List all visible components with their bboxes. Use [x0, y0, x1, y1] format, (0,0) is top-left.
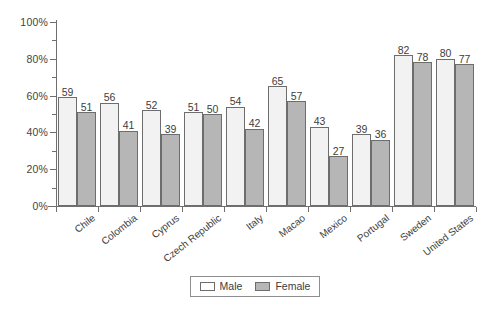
bar-male: 43 [310, 127, 329, 206]
bar-chart: 0%20%40%60%80%100% 595156415239515054426… [0, 0, 499, 309]
bar-value-label: 52 [146, 100, 158, 111]
bar-male: 59 [58, 97, 77, 206]
bar-group: 5150 [184, 22, 222, 206]
bar-value-label: 80 [440, 48, 452, 59]
y-axis-label: 40% [26, 127, 48, 138]
bar-group: 4327 [310, 22, 348, 206]
bar-value-label: 65 [272, 76, 284, 87]
y-axis-label: 100% [20, 17, 48, 28]
bar-value-label: 56 [104, 92, 116, 103]
bar-male: 39 [352, 134, 371, 206]
bar-value-label: 77 [459, 54, 471, 65]
legend-label-male: Male [220, 281, 243, 292]
bar-value-label: 39 [165, 124, 177, 135]
bar-female: 42 [245, 129, 264, 206]
bar-female: 50 [203, 114, 222, 206]
bar-male: 52 [142, 110, 161, 206]
x-axis-line [48, 206, 476, 207]
bar-group: 5442 [226, 22, 264, 206]
x-axis-tick [224, 207, 225, 212]
bar-female: 78 [413, 62, 432, 206]
bar-female: 41 [119, 131, 138, 206]
bar-group: 5951 [58, 22, 96, 206]
bar-female: 39 [161, 134, 180, 206]
bar-value-label: 51 [81, 102, 93, 113]
bar-male: 65 [268, 86, 287, 206]
legend-entry-female: Female [255, 281, 310, 292]
bar-female: 57 [287, 101, 306, 206]
legend-entry-male: Male [200, 281, 243, 292]
bar-female: 27 [329, 156, 348, 206]
x-axis-tick [182, 207, 183, 212]
x-axis-tick [56, 207, 57, 212]
x-axis-tick [434, 207, 435, 212]
bar-male: 82 [394, 55, 413, 206]
x-axis-category-label: Colombia [100, 213, 139, 247]
bar-group: 3936 [352, 22, 390, 206]
y-axis-label: 20% [26, 164, 48, 175]
x-axis-category-label: Chile [73, 213, 97, 235]
bar-value-label: 78 [417, 52, 429, 63]
bar-female: 36 [371, 140, 390, 206]
legend-label-female: Female [275, 281, 310, 292]
bar-value-label: 82 [398, 45, 410, 56]
bar-value-label: 51 [188, 102, 200, 113]
bar-male: 56 [100, 103, 119, 206]
y-axis-label: 80% [26, 54, 48, 65]
bar-group: 5641 [100, 22, 138, 206]
x-axis-tick [308, 207, 309, 212]
x-axis-category-label: Cyprus [150, 213, 181, 240]
bar-value-label: 57 [291, 91, 303, 102]
x-axis-tick [476, 207, 477, 212]
x-axis-category-label: Portugal [356, 213, 392, 244]
bar-value-label: 43 [314, 116, 326, 127]
bar-female: 77 [455, 64, 474, 206]
bar-male: 80 [436, 59, 455, 206]
bar-group: 8278 [394, 22, 432, 206]
bar-male: 54 [226, 107, 245, 206]
x-axis-tick [266, 207, 267, 212]
y-axis-label: 60% [26, 91, 48, 102]
bar-value-label: 27 [333, 146, 345, 157]
chart-legend: Male Female [190, 276, 320, 297]
x-axis-tick [350, 207, 351, 212]
bar-female: 51 [77, 112, 96, 206]
x-axis-category-label: Sweden [399, 213, 434, 243]
plot-area: 5951564152395150544265574327393682788077 [56, 22, 476, 206]
bar-value-label: 39 [356, 124, 368, 135]
x-axis-category-label: Italy [245, 213, 266, 232]
bar-value-label: 41 [123, 120, 135, 131]
bar-value-label: 50 [207, 104, 219, 115]
bar-group: 5239 [142, 22, 180, 206]
bar-value-label: 42 [249, 118, 261, 129]
legend-swatch-male-icon [200, 282, 215, 291]
bar-male: 51 [184, 112, 203, 206]
legend-swatch-female-icon [255, 282, 270, 291]
y-axis-label: 0% [32, 201, 48, 212]
bar-value-label: 36 [375, 129, 387, 140]
x-axis-category-label: Mexico [318, 213, 349, 240]
bar-value-label: 54 [230, 96, 242, 107]
bar-value-label: 59 [62, 87, 74, 98]
x-axis-category-label: Macao [277, 213, 307, 239]
x-axis-tick [392, 207, 393, 212]
bar-group: 6557 [268, 22, 306, 206]
x-axis-tick [98, 207, 99, 212]
bar-group: 8077 [436, 22, 474, 206]
x-axis-tick [140, 207, 141, 212]
